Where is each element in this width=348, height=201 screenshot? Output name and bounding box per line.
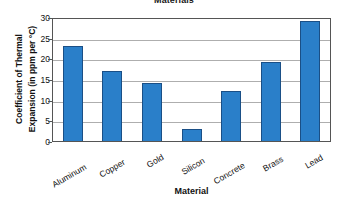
x-axis-tick-label-brass: Brass: [261, 154, 285, 174]
x-axis-tick-label-copper: Copper: [97, 157, 126, 180]
bar-slot: [132, 19, 172, 141]
x-axis-tick-label-lead: Lead: [303, 152, 324, 170]
bar-concrete[interactable]: [221, 91, 241, 141]
bar-slot: [172, 19, 212, 141]
x-axis-tick-labels: AluminumCopperGoldSiliconConcreteBrassLe…: [52, 143, 331, 183]
bar-silicon[interactable]: [182, 129, 202, 141]
bar-slot: [290, 19, 330, 141]
plot-area: [52, 18, 331, 142]
bar-brass[interactable]: [261, 62, 281, 141]
bar-gold[interactable]: [142, 83, 162, 141]
bar-slot: [251, 19, 291, 141]
x-axis-tick-label-concrete: Concrete: [212, 160, 247, 186]
y-axis-title: Coefficient of Thermal Expansion (in ppm…: [0, 14, 30, 144]
x-axis-tick-label-gold: Gold: [144, 152, 165, 170]
bar-lead[interactable]: [300, 21, 320, 141]
bar-aluminum[interactable]: [63, 46, 83, 141]
chart-title: Materials: [0, 0, 348, 5]
bar-slot: [211, 19, 251, 141]
bar-chart: Materials Coefficient of Thermal Expansi…: [0, 0, 348, 201]
x-axis-title: Material: [52, 186, 331, 196]
x-axis-tick-label-silicon: Silicon: [179, 156, 206, 177]
bars-layer: [53, 19, 330, 141]
bar-copper[interactable]: [102, 71, 122, 141]
bar-slot: [93, 19, 133, 141]
bar-slot: [53, 19, 93, 141]
